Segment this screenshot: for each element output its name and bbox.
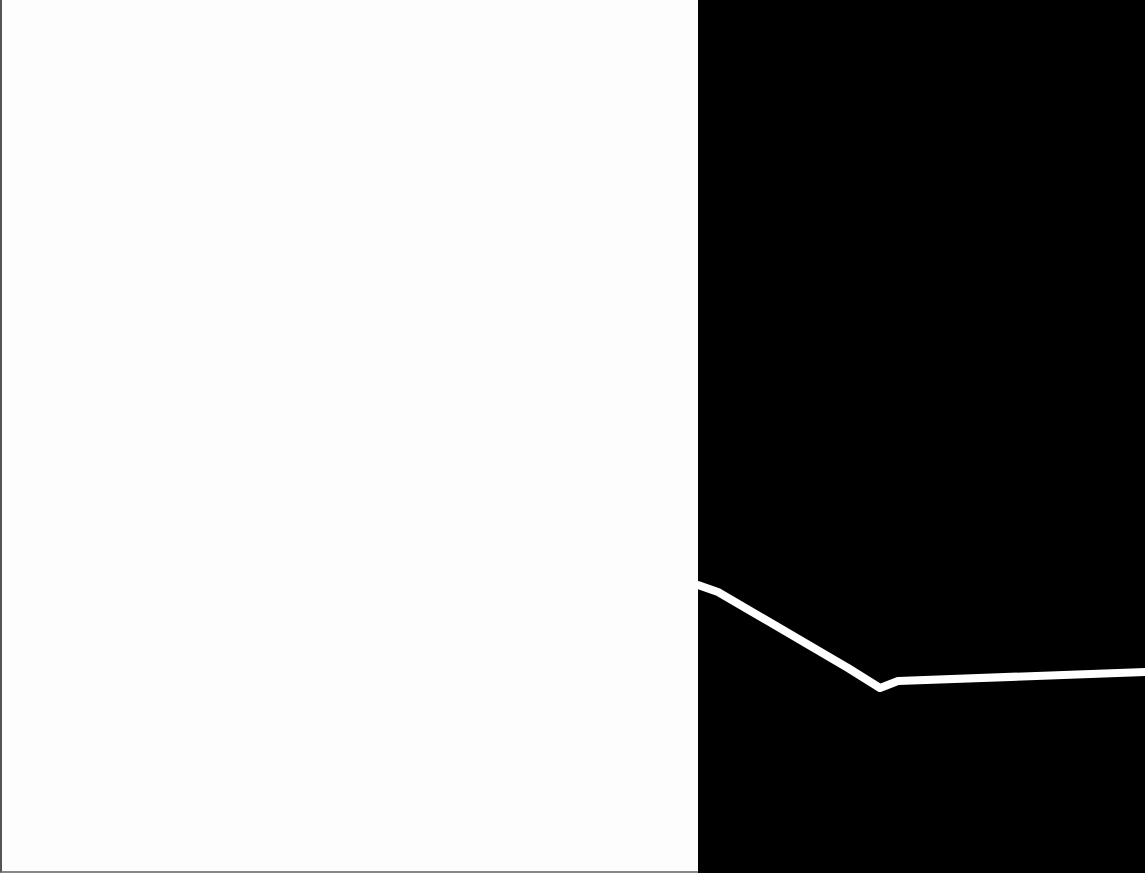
- black-panel: [698, 0, 1145, 873]
- white-stroke-line: [698, 0, 1145, 873]
- white-panel: [0, 0, 698, 873]
